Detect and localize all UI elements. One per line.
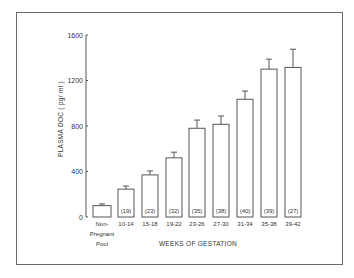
category-label: Pregnant: [90, 231, 115, 237]
y-tick-label: 0: [79, 214, 83, 221]
category-label: 15-18: [142, 221, 158, 227]
y-tick-label: 1600: [67, 32, 83, 39]
bar-group: (40): [237, 91, 253, 217]
y-tick-label: 800: [71, 123, 83, 130]
bar: [93, 206, 111, 217]
category-label: 35-38: [261, 221, 277, 227]
y-axis-title: PLASMA DOC ( pg/ ml ): [57, 81, 65, 157]
bar-group: (39): [261, 59, 277, 217]
category-label: 19-22: [166, 221, 182, 227]
y-axis: 040080012001600: [67, 32, 88, 221]
bar-group: (32): [166, 152, 182, 217]
category-label: 10-14: [118, 221, 134, 227]
category-label: 31-34: [237, 221, 253, 227]
sample-size-label: (32): [169, 208, 180, 214]
bar-group: (19): [118, 186, 134, 217]
category-label: Non-: [95, 221, 108, 227]
bar: [189, 128, 205, 217]
category-label: 23-26: [189, 221, 205, 227]
category-label: 27-30: [213, 221, 229, 227]
bar: [237, 99, 253, 217]
bar-chart: 040080012001600 (19)(23)(32)(35)(38)(40)…: [0, 0, 354, 278]
sample-size-label: (38): [216, 208, 227, 214]
category-label: 39-42: [285, 221, 301, 227]
bars: (19)(23)(32)(35)(38)(40)(39)(27): [93, 49, 301, 217]
y-tick-label: 400: [71, 168, 83, 175]
sample-size-label: (40): [240, 208, 251, 214]
bar-group: (38): [213, 116, 229, 217]
sample-size-label: (27): [288, 208, 299, 214]
category-label: Pool: [96, 241, 108, 247]
bar: [213, 124, 229, 217]
sample-size-label: (39): [264, 208, 275, 214]
bar: [261, 69, 277, 217]
x-axis-title: WEEKS OF GESTATION: [159, 240, 237, 247]
bar: [285, 67, 301, 217]
bar-group: (35): [189, 120, 205, 217]
bar-group: [93, 204, 111, 217]
sample-size-label: (23): [145, 208, 156, 214]
sample-size-label: (19): [121, 208, 132, 214]
y-tick-label: 1200: [67, 77, 83, 84]
sample-size-label: (35): [192, 208, 203, 214]
bar-group: (27): [285, 49, 301, 217]
bar-group: (23): [142, 171, 158, 217]
